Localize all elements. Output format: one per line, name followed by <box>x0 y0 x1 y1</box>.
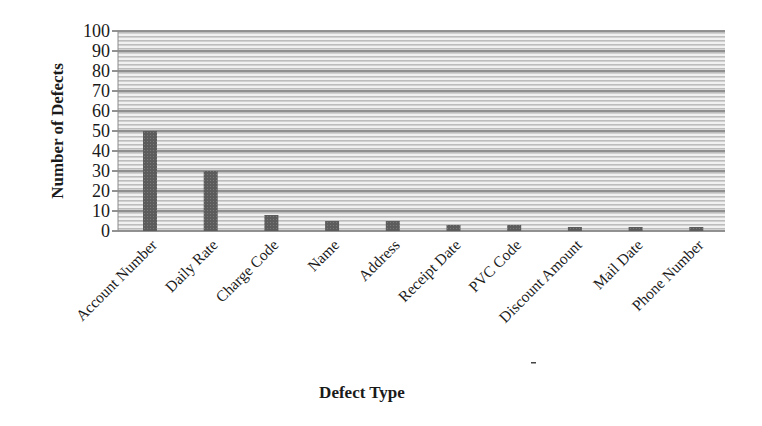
bar <box>447 225 461 231</box>
x-tick-label: Name <box>304 236 342 274</box>
bar <box>204 171 218 231</box>
y-tick-label: 20 <box>92 181 110 201</box>
bar <box>568 227 582 231</box>
y-tick-label: 30 <box>92 161 110 181</box>
y-tick-label: 10 <box>92 201 110 221</box>
bar <box>264 215 278 231</box>
x-tick-label: Receipt Date <box>395 236 464 305</box>
bar <box>629 227 643 231</box>
x-axis-title: Defect Type <box>319 383 405 402</box>
x-tick-label: Charge Code <box>212 236 281 305</box>
x-tick-label: Daily Rate <box>162 236 221 295</box>
bar-chart: 0102030405060708090100 Account NumberDai… <box>0 0 762 426</box>
y-tick-label: 40 <box>92 141 110 161</box>
y-tick-label: 50 <box>92 121 110 141</box>
y-axis-ticks: 0102030405060708090100 <box>83 21 110 241</box>
y-tick-label: 0 <box>101 221 110 241</box>
y-tick-label: 100 <box>83 21 110 41</box>
y-tick-label: 80 <box>92 61 110 81</box>
x-tick-label: Mail Date <box>590 236 646 292</box>
bar <box>143 131 157 231</box>
bar <box>507 225 521 231</box>
bar <box>689 227 703 231</box>
bar <box>386 221 400 231</box>
stray-mark <box>531 362 536 364</box>
x-tick-label: Account Number <box>72 236 160 324</box>
y-axis-title: Number of Defects <box>48 63 67 199</box>
y-tick-label: 70 <box>92 81 110 101</box>
x-axis-labels: Account NumberDaily RateCharge CodeNameA… <box>72 236 707 326</box>
bar <box>325 221 339 231</box>
y-tick-label: 90 <box>92 41 110 61</box>
y-tick-label: 60 <box>92 101 110 121</box>
x-tick-label: Address <box>355 236 403 284</box>
x-tick-label: PVC Code <box>465 236 524 295</box>
